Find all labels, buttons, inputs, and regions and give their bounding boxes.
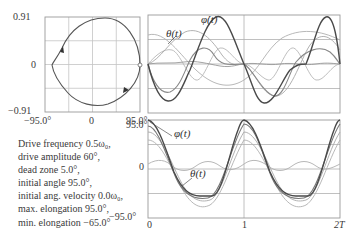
param-max-elongation: max. elongation 95.0°,: [18, 202, 123, 215]
angle-theta-leader-line: [182, 178, 192, 186]
param-initial-angle: initial angle 95.0°,: [18, 176, 123, 189]
angle-x-end-label: 2T: [334, 220, 345, 230]
param-min-elongation: min. elongation −65.0°: [18, 216, 123, 229]
angle-phi-label: φ(t): [174, 128, 190, 139]
angle-y-max-label: 95.0°: [126, 120, 148, 130]
param-dead-zone: dead zone 5.0°,: [18, 163, 123, 176]
phase-curve: [52, 18, 140, 106]
angle-x-one-label: 1: [242, 220, 247, 230]
phase-y-zero-label: 0: [31, 60, 36, 70]
parameters-block: Drive frequency 0.5ω₀, drive amplitude 6…: [18, 137, 123, 229]
phase-x-zero-label: 0: [89, 116, 94, 126]
param-initial-velocity: initial ang. velocity 0.0ω₀,: [18, 189, 123, 202]
velocity-theta-label: θ(t): [166, 28, 182, 39]
param-drive-frequency: Drive frequency 0.5ω₀,: [18, 137, 123, 150]
param-drive-amplitude: drive amplitude 60°,: [18, 150, 123, 163]
angle-y-zero-label: 0: [139, 162, 144, 172]
angle-theta-label: θ(t): [190, 168, 206, 179]
angle-x-zero-label: 0: [147, 220, 152, 230]
phase-x-min-label: −95.0°: [24, 116, 51, 126]
velocity-phidot-label: φ̇(t): [201, 14, 217, 25]
phase-plot: [45, 17, 142, 112]
phase-start-marker: [138, 63, 142, 67]
phase-y-max-label: 0.91: [13, 12, 31, 22]
phase-grid: [45, 17, 140, 112]
